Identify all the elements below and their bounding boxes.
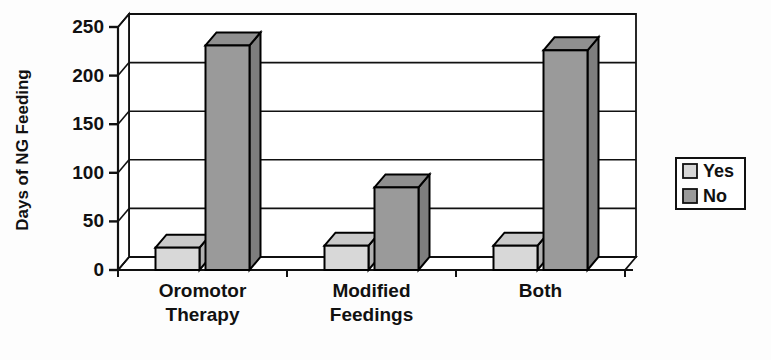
- y-tick-label: 0: [93, 259, 104, 280]
- legend-item-no[interactable]: No: [683, 186, 727, 206]
- chart-legend: YesNo: [676, 158, 745, 209]
- y-axis-title: Days of NG Feeding: [13, 69, 32, 231]
- chart-figure: 050100150200250OromotorTherapyModifiedFe…: [0, 0, 771, 360]
- legend-swatch: [683, 189, 697, 203]
- x-category-label: Feedings: [330, 304, 413, 325]
- bar-front-face: [206, 45, 250, 270]
- bar-top-face: [156, 235, 211, 248]
- legend-label: Yes: [703, 161, 734, 181]
- y-tick-label: 100: [72, 162, 104, 183]
- x-category-label: Therapy: [166, 304, 240, 325]
- bar-front-face: [325, 246, 369, 270]
- bar-no-1: [206, 32, 261, 270]
- bar-no-3: [544, 37, 599, 270]
- bar-yes-1: [156, 235, 211, 270]
- y-tick-label: 250: [72, 16, 104, 37]
- bar-front-face: [494, 246, 538, 270]
- bar-top-face: [206, 32, 261, 45]
- bar-top-face: [494, 233, 549, 246]
- bar-top-face: [544, 37, 599, 50]
- y-tick-label: 200: [72, 65, 104, 86]
- bar-top-face: [375, 174, 430, 187]
- bar-front-face: [544, 50, 588, 270]
- bar-front-face: [375, 187, 419, 270]
- y-tick-label: 50: [83, 210, 104, 231]
- bar-chart-canvas: 050100150200250OromotorTherapyModifiedFe…: [0, 0, 771, 360]
- bar-side-face: [419, 174, 430, 270]
- legend-item-yes[interactable]: Yes: [683, 161, 734, 181]
- bar-side-face: [250, 32, 261, 270]
- x-category-labels: OromotorTherapyModifiedFeedingsBoth: [159, 270, 625, 325]
- bar-yes-2: [325, 233, 380, 270]
- bar-yes-3: [494, 233, 549, 270]
- bar-side-face: [588, 37, 599, 270]
- legend-swatch: [683, 164, 697, 178]
- legend-label: No: [703, 186, 727, 206]
- y-tick-label: 150: [72, 113, 104, 134]
- x-category-label: Both: [519, 280, 562, 301]
- bar-front-face: [156, 248, 200, 270]
- bar-no-2: [375, 174, 430, 270]
- x-category-label: Oromotor: [159, 280, 247, 301]
- bar-top-face: [325, 233, 380, 246]
- x-category-label: Modified: [332, 280, 410, 301]
- plot-left-wall: [118, 14, 129, 270]
